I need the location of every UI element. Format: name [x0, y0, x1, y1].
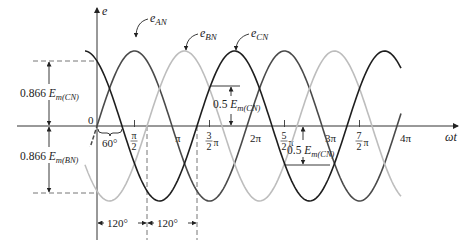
half-lower-label: 0.5 Em(CN) [287, 144, 335, 159]
label-e-bn: eBN [186, 26, 218, 50]
svg-text:eCN: eCN [251, 26, 269, 42]
three-phase-waveform-diagram: e ωt 0 π2π32π2π52π3π72π4π eAN eBN eCN [0, 0, 475, 252]
x-tick: 2π [250, 132, 262, 144]
half-amplitude-upper: 0.5 Em(CN) [210, 86, 261, 125]
svg-text:4π: 4π [400, 132, 412, 144]
svg-text:eAN: eAN [150, 11, 168, 27]
svg-text:2: 2 [132, 141, 137, 152]
x-axis-label: ωt [445, 130, 457, 144]
angle-60-label: 60° [102, 137, 117, 149]
waveform-lead-in [85, 51, 97, 61]
x-tick: 4π [400, 132, 412, 144]
svg-text:π: π [132, 130, 137, 141]
svg-text:3: 3 [207, 130, 212, 141]
origin-label: 0 [88, 114, 94, 126]
svg-text:5: 5 [282, 130, 287, 141]
svg-text:7: 7 [357, 130, 362, 141]
waveform-plot: e ωt 0 π2π32π2π52π3π72π4π eAN eBN eCN [0, 0, 475, 252]
curve-labels: eAN eBN eCN [136, 11, 269, 50]
angle-120-label-1: 120° [107, 217, 128, 229]
y-axis-label: e [102, 4, 108, 18]
axes: e ωt 0 π2π32π2π52π3π72π4π [17, 4, 458, 240]
svg-text:eBN: eBN [200, 26, 218, 42]
waveform-lead-in [85, 165, 97, 191]
x-tick: π2 [131, 120, 138, 152]
angle-120-label-2: 120° [157, 217, 178, 229]
half-upper-label: 0.5 Em(CN) [213, 98, 261, 113]
label-e-cn: eCN [236, 26, 269, 50]
svg-text:2: 2 [357, 141, 362, 152]
svg-text:π: π [364, 137, 369, 148]
x-tick: 72π [356, 120, 369, 152]
x-tick: 32π [206, 120, 219, 152]
angle-60-brace: 60° [98, 129, 122, 149]
svg-text:2π: 2π [250, 132, 262, 144]
svg-text:π: π [214, 137, 219, 148]
label-e-an: eAN [136, 11, 168, 37]
svg-text:2: 2 [207, 141, 212, 152]
svg-text:2: 2 [282, 141, 287, 152]
